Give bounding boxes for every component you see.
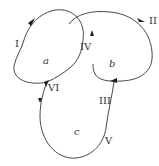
arrow-III-icon (110, 78, 117, 83)
curve-label-VI: VI (47, 82, 59, 93)
curve-c (40, 82, 114, 158)
loop-diagram: a b c I II III IV V VI (0, 0, 159, 166)
curve-label-IV: IV (80, 41, 92, 52)
curve-label-V: V (104, 135, 113, 146)
curve-label-II: II (149, 15, 157, 26)
curve-label-III: III (99, 95, 111, 106)
region-b-label: b (109, 58, 115, 69)
region-a-label: a (43, 55, 49, 66)
region-c-label: c (74, 126, 80, 137)
curve-a-segment-I (14, 10, 84, 83)
curve-label-I: I (15, 38, 19, 49)
arrow-IV-icon (90, 30, 94, 36)
arrow-II-icon (137, 18, 145, 22)
